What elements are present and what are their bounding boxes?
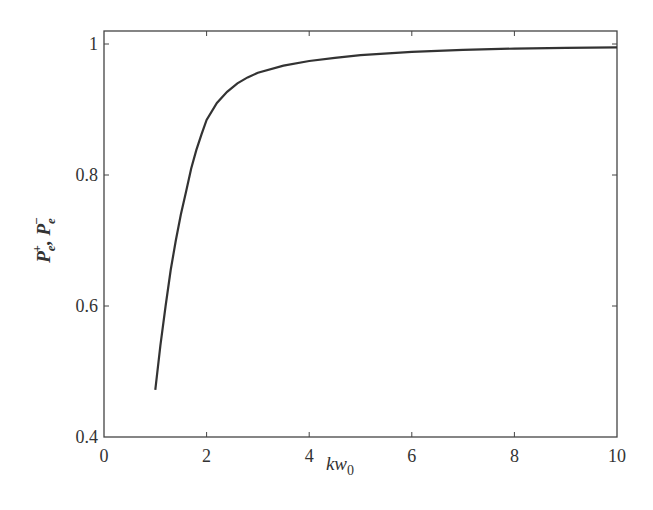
x-tick-labels: 0246810 <box>100 446 627 466</box>
x-tick-label: 6 <box>407 446 416 466</box>
line-chart: 0246810 0.40.60.81 kw0 Pe+, Pe− <box>0 0 653 510</box>
y-tick-label: 0.6 <box>76 296 99 316</box>
plot-frame <box>104 31 617 437</box>
svg-text:Pe+, Pe−: Pe+, Pe− <box>29 217 58 264</box>
axis-ticks <box>104 31 617 437</box>
y-axis-label: Pe+, Pe− <box>29 217 58 264</box>
y-tick-label: 1 <box>89 34 98 54</box>
x-axis-label: kw0 <box>326 453 354 478</box>
x-tick-label: 10 <box>608 446 626 466</box>
x-tick-label: 0 <box>100 446 109 466</box>
y-tick-labels: 0.40.60.81 <box>76 34 99 447</box>
y-tick-label: 0.4 <box>76 427 99 447</box>
x-tick-label: 4 <box>305 446 314 466</box>
y-tick-label: 0.8 <box>76 165 99 185</box>
x-tick-label: 2 <box>202 446 211 466</box>
data-curve <box>155 47 617 390</box>
x-tick-label: 8 <box>510 446 519 466</box>
